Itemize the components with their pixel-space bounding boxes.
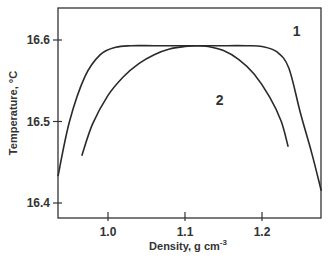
curve-label: 1 [293,23,301,39]
x-tick-label: 1.1 [177,225,194,239]
line-chart: 1.01.11.2 16.416.516.6 12 Density, g cm-… [0,0,329,262]
x-tick-label: 1.2 [254,225,271,239]
x-tick-label: 1.0 [100,225,117,239]
curve-label: 2 [216,92,224,108]
y-tick-label: 16.5 [27,115,51,129]
curve-2 [82,46,288,156]
y-axis-ticks: 16.416.516.6 [27,33,62,210]
x-axis-label: Density, g cm-3 [149,238,227,252]
curve-1 [58,46,321,191]
y-axis-label: Temperature, °C [7,71,19,155]
x-axis-ticks: 1.01.11.2 [100,212,271,239]
y-tick-label: 16.4 [27,196,51,210]
curves [58,46,321,191]
y-tick-label: 16.6 [27,33,51,47]
